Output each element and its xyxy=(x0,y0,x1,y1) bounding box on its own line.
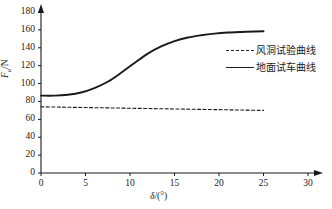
chart-legend: 风洞试验曲线 地面试车曲线 xyxy=(226,44,316,74)
y-axis-title: Fa/N xyxy=(1,59,12,78)
legend-swatch-solid-icon xyxy=(226,67,254,68)
legend-label-wind-tunnel: 风洞试验曲线 xyxy=(256,46,316,56)
chart-figure: 020406080100120140160180 051015202530 Fa… xyxy=(0,0,332,209)
y-tick-label: 0 xyxy=(0,168,35,178)
plot-area xyxy=(0,0,332,209)
x-tick-label: 5 xyxy=(71,179,101,189)
y-tick-label: 40 xyxy=(0,132,35,142)
x-tick-label: 0 xyxy=(26,179,56,189)
legend-swatch-dashed-icon xyxy=(226,50,254,51)
y-tick-label: 100 xyxy=(0,79,35,89)
y-tick-label: 80 xyxy=(0,96,35,106)
x-axis-title: δ/(°) xyxy=(150,192,167,202)
x-tick-label: 20 xyxy=(204,179,234,189)
y-axis-title-symbol: F xyxy=(0,72,10,78)
y-axis-title-unit: /N xyxy=(0,59,10,69)
legend-item-wind-tunnel: 风洞试验曲线 xyxy=(226,44,316,57)
legend-item-ground-test: 地面试车曲线 xyxy=(226,61,316,74)
x-axis-title-unit: /(°) xyxy=(154,191,167,201)
x-tick-label: 15 xyxy=(160,179,190,189)
x-tick-label: 10 xyxy=(115,179,145,189)
legend-label-ground-test: 地面试车曲线 xyxy=(256,63,316,73)
series-line-0 xyxy=(41,107,264,111)
x-axis-arrow xyxy=(314,170,323,176)
y-axis-title-subscript: a xyxy=(5,69,12,72)
y-tick-label: 20 xyxy=(0,150,35,160)
x-tick-label: 30 xyxy=(293,179,323,189)
y-tick-label: 60 xyxy=(0,114,35,124)
y-tick-label: 180 xyxy=(0,7,35,17)
y-tick-label: 140 xyxy=(0,43,35,53)
y-tick-label: 160 xyxy=(0,25,35,35)
x-tick-label: 25 xyxy=(249,179,279,189)
